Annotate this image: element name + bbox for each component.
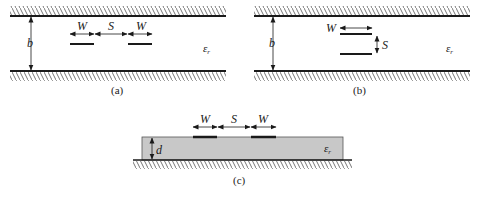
width-label-left: W (77, 19, 88, 33)
panel-c: W S W d εr (c) (133, 112, 352, 187)
substrate (142, 137, 343, 160)
bottom-ground-hatch (10, 72, 226, 81)
caption-c: (c) (233, 174, 246, 187)
ground-hatch (133, 161, 352, 169)
panel-a: b W S W εr (a) (10, 6, 226, 97)
caption-a: (a) (111, 84, 124, 97)
spacing-label: S (108, 19, 114, 33)
height-label: b (27, 36, 33, 50)
width-label-right: W (136, 19, 147, 33)
width-label: W (326, 21, 337, 35)
caption-b: (b) (353, 84, 366, 97)
spacing-label: S (382, 38, 388, 52)
width-label-right: W (258, 112, 269, 126)
permittivity-label: εr (203, 42, 210, 56)
height-label: d (156, 143, 163, 157)
width-label-left: W (200, 112, 211, 126)
top-ground-hatch (10, 6, 226, 15)
top-ground-hatch (254, 6, 470, 15)
permittivity-label: εr (446, 42, 453, 56)
panel-b: b W S εr (b) (254, 6, 470, 97)
spacing-label: S (231, 112, 237, 126)
height-label: b (269, 36, 275, 50)
bottom-ground-hatch (254, 72, 470, 81)
coupled-lines-figure: b W S W εr (a) b W S εr (b) (0, 0, 481, 197)
